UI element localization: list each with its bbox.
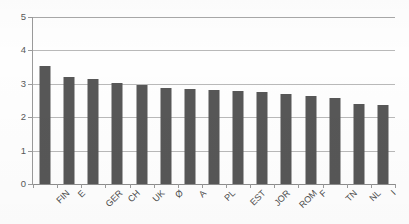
bar-slot [57,17,81,184]
x-tick-label-EST: EST [248,188,267,207]
bar-chart-figure: 5 4 3 2 1 0 FINEGERCHUKØAPLESTJORROMFTNN… [0,0,409,224]
x-tick-label-PL: PL [222,188,237,203]
bar-I[interactable] [377,105,388,184]
bar-slot [226,17,250,184]
bar-slot [178,17,202,184]
x-tick-label-CH: CH [126,188,142,204]
y-tick-label-0: 0 [4,179,26,189]
bar-slot [274,17,298,184]
bar-slot [105,17,129,184]
bar-TN[interactable] [329,98,340,185]
y-tick-label-1: 1 [4,146,26,156]
bar-NL[interactable] [353,104,364,184]
gridline-0-baseline [33,184,395,185]
plot-area [33,17,395,184]
x-tick-label-FIN: FIN [54,188,71,205]
x-tick-label-F: F [317,188,328,199]
x-tick-label-JOR: JOR [273,188,293,208]
bar-slot [250,17,274,184]
x-axis-labels: FINEGERCHUKØAPLESTJORROMFTNNLI [33,188,395,224]
x-tick-label-I: I [389,188,398,197]
bar-EST[interactable] [233,91,244,184]
x-tick-label-A: A [197,188,208,199]
x-tick-label-UK: UK [150,188,166,204]
bar-CH[interactable] [112,83,123,184]
bar-FIN[interactable] [40,66,51,184]
y-tick-label-4: 4 [4,45,26,55]
x-tick-label-GER: GER [104,188,125,209]
bar-PL[interactable] [208,90,219,184]
bar-F[interactable] [305,96,316,185]
bar-E[interactable] [64,77,75,184]
bar-UK[interactable] [136,85,147,184]
bar-JOR[interactable] [257,92,268,184]
bar-slot [202,17,226,184]
bar-Ø[interactable] [160,88,171,184]
y-axis-labels: 5 4 3 2 1 0 [0,0,26,224]
bar-ROM[interactable] [281,94,292,184]
y-tick-label-5: 5 [4,12,26,22]
bar-slot [154,17,178,184]
x-tick-label-E: E [76,188,87,199]
y-tick-label-3: 3 [4,79,26,89]
bar-slot [323,17,347,184]
x-tick-label-Ø: Ø [173,188,185,200]
bars-group [33,17,395,184]
x-tick-label-ROM: ROM [298,188,320,210]
bar-slot [130,17,154,184]
x-tick-label-TN: TN [343,188,359,204]
bar-slot [347,17,371,184]
x-tick-mark-end [395,184,396,188]
x-tick-label-NL: NL [367,188,382,203]
bar-GER[interactable] [88,79,99,184]
bar-A[interactable] [184,89,195,184]
bar-slot [81,17,105,184]
bar-slot [33,17,57,184]
y-tick-label-2: 2 [4,112,26,122]
bar-slot [298,17,322,184]
bar-slot [371,17,395,184]
